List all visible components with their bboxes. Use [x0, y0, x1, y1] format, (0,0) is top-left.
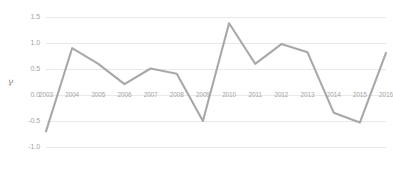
y-axis-tick-label: 1.5: [31, 13, 40, 21]
y-axis-title: ℃: [7, 73, 15, 91]
gridline: [46, 147, 386, 148]
y-axis-tick-label: 0.5: [31, 65, 40, 73]
series-svg: [46, 17, 386, 147]
y-axis-tick-label: 0.0: [31, 91, 40, 99]
series-line-temperature-anomaly: [46, 23, 386, 131]
plot-area: [46, 17, 386, 147]
y-axis-tick-label: -0.5: [28, 117, 40, 125]
y-axis-tick-label: -1.0: [28, 143, 40, 151]
y-axis-tick-label: 1.0: [31, 39, 40, 47]
line-chart: ℃ 1.51.00.50.0-0.5-1.0 20032004200520062…: [0, 0, 393, 180]
